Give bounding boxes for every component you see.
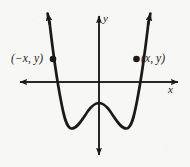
graph-canvas: [0, 0, 190, 167]
x-axis-label: x: [168, 84, 173, 95]
point-label-right: (x, y): [141, 53, 165, 65]
point-label-left: (−x, y): [11, 53, 43, 65]
curve-arm-left-arrow: [48, 14, 50, 25]
y-axis-label: y: [103, 13, 108, 24]
point-marker-right: [133, 56, 140, 63]
figure-root: (−x, y) (x, y) y x: [0, 0, 190, 167]
curve-arm-right-arrow: [148, 14, 150, 25]
point-marker-left: [50, 56, 57, 63]
